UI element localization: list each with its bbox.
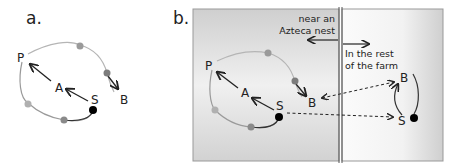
node-s: S [91,93,99,107]
dot-gray [212,107,219,114]
node-p: P [17,51,24,65]
dot-gray [61,117,68,124]
near-nest-label-1: near an [299,13,335,24]
node-b-right: B [400,71,408,85]
dot-black [89,106,97,114]
node-p: P [205,59,212,73]
node-b: B [308,96,316,110]
rest-farm-label-2: of the farm [345,60,398,71]
dot-gray [248,124,255,131]
arrow-a-to-p [30,64,51,81]
dot-gray [25,101,32,108]
panel-b: near an Azteca nest In the rest of the f… [193,7,443,163]
rest-farm-label-1: In the rest [345,48,394,59]
dot-gray [292,78,299,85]
diagram-canvas: P A S B near an Azteca nest In the rest … [0,0,463,168]
dot-black [275,113,283,121]
node-s: S [276,99,284,113]
loop-curve [28,42,114,92]
node-a: A [55,81,64,95]
node-b: B [120,93,128,107]
loop-dark-segment [64,110,93,121]
arrow-s-to-a [66,89,88,101]
panel-a: P A S B [17,42,128,123]
dot-gray [265,50,272,57]
node-s-right: S [398,114,406,128]
near-nest-label-2: Azteca nest [279,25,335,36]
region-rest-of-farm [342,9,443,161]
dot-black [410,114,418,122]
dot-gray [104,70,111,77]
node-a: A [241,86,250,100]
dot-gray [77,43,84,50]
